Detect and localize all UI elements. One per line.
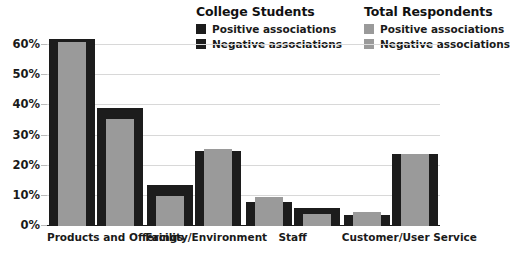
bar-pair-container: [145, 30, 243, 226]
y-axis-tick-label: 60%: [12, 37, 40, 51]
legend-title-college-students: College Students: [196, 4, 342, 19]
y-axis-tick-label: 0%: [20, 218, 40, 232]
bar-pair-positive: [344, 30, 390, 226]
x-axis-category-label: Products and Offerings: [47, 231, 145, 243]
y-axis-tick-label: 50%: [12, 67, 40, 81]
bar-total-respondents-negative: [303, 214, 331, 226]
y-axis-tick-label: 20%: [12, 158, 40, 172]
bar-total-respondents-negative: [106, 119, 134, 226]
bar-total-respondents-positive: [58, 42, 86, 226]
bar-group: Facility/Environment: [145, 30, 243, 226]
bar-total-respondents-positive: [255, 197, 283, 226]
bar-pair-container: [47, 30, 145, 226]
y-axis-tick-label: 30%: [12, 128, 40, 142]
bar-total-respondents-negative: [204, 149, 232, 226]
bar-pair-negative: [97, 30, 143, 226]
bar-group: Staff: [244, 30, 342, 226]
plot-area: 0%10%20%30%40%50%60% Products and Offeri…: [47, 30, 440, 226]
legend-title-total-respondents: Total Respondents: [364, 4, 510, 19]
bar-pair-positive: [246, 30, 292, 226]
y-axis-tick-label: 40%: [12, 97, 40, 111]
bar-pair-container: [244, 30, 342, 226]
bar-total-respondents-positive: [156, 196, 184, 226]
bar-group: Customer/User Service: [342, 30, 440, 226]
bar-pair-positive: [147, 30, 193, 226]
bar-pair-positive: [49, 30, 95, 226]
bar-pair-container: [342, 30, 440, 226]
bar-total-respondents-negative: [401, 154, 429, 226]
y-axis-tick-label: 10%: [12, 188, 40, 202]
bar-pair-negative: [392, 30, 438, 226]
x-axis-category-label: Staff: [244, 231, 342, 243]
bar-groups: Products and OfferingsFacility/Environme…: [47, 30, 440, 226]
x-axis-category-label: Facility/Environment: [145, 231, 243, 243]
bar-pair-negative: [195, 30, 241, 226]
x-axis-category-label: Customer/User Service: [342, 231, 440, 243]
bar-total-respondents-positive: [353, 212, 381, 226]
bar-pair-negative: [294, 30, 340, 226]
bar-group: Products and Offerings: [47, 30, 145, 226]
